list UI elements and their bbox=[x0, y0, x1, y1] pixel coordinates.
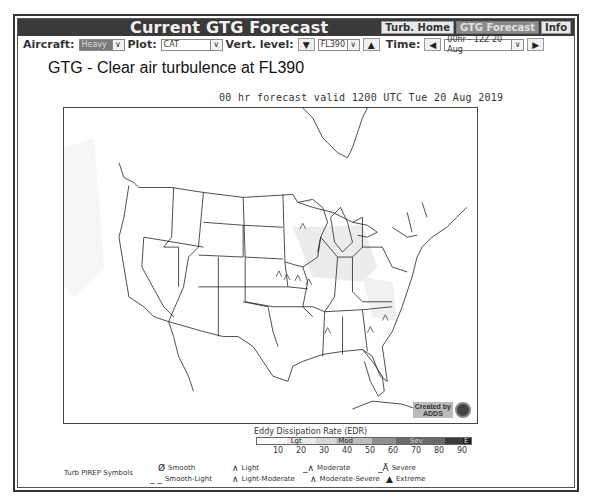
pirep-legend: Turb PIREP Symbols Ø Smooth _ _ Smooth-L… bbox=[0, 462, 590, 488]
nav-info-button[interactable]: Info bbox=[541, 21, 571, 34]
level-select[interactable]: FL390 ∨ bbox=[318, 39, 360, 51]
nav-buttons: Turb. Home GTG Forecast Info bbox=[381, 21, 571, 34]
pirep-label: Moderate bbox=[317, 464, 350, 472]
tick-label: 40 bbox=[342, 446, 352, 455]
pirep-item-smooth: Ø Smooth bbox=[158, 463, 195, 473]
triangle-down-icon: ▼ bbox=[303, 40, 310, 50]
pirep-label: Light bbox=[242, 464, 259, 472]
pirep-item-smooth-light: _ _ Smooth-Light bbox=[150, 474, 212, 484]
plot-subtitle: 00 hr forecast valid 1200 UTC Tue 20 Aug… bbox=[219, 92, 503, 103]
colorbar-ticks: 10 20 30 40 50 60 70 80 90 bbox=[256, 446, 472, 456]
credit-text: Created by ADDS bbox=[413, 402, 453, 418]
tick-label: 20 bbox=[296, 446, 306, 455]
colorbar-segment-severe: Sev bbox=[396, 438, 446, 444]
smooth-light-symbol-icon: _ _ bbox=[150, 474, 162, 484]
tick-label: 90 bbox=[457, 446, 467, 455]
nav-turb-home-button[interactable]: Turb. Home bbox=[381, 21, 454, 34]
tick-label: 70 bbox=[411, 446, 421, 455]
pirep-label: Light-Moderate bbox=[242, 475, 295, 483]
pirep-item-light-moderate: ∧ Light-Moderate bbox=[232, 474, 295, 484]
title-bar: Current GTG Forecast Turb. Home GTG Fore… bbox=[18, 19, 574, 36]
colorbar-segment-light: Lgt bbox=[287, 438, 317, 444]
tick-label: 50 bbox=[365, 446, 375, 455]
us-map-outline bbox=[64, 108, 477, 423]
light-symbol-icon: ∧ bbox=[232, 463, 239, 473]
chevron-down-icon: ∨ bbox=[347, 40, 359, 50]
pirep-label: Extreme bbox=[396, 475, 425, 483]
tick-label: 60 bbox=[388, 446, 398, 455]
plot-label: Plot: bbox=[128, 38, 157, 51]
moderate-severe-symbol-icon: ∧ bbox=[310, 474, 317, 484]
plot-select[interactable]: CAT ∨ bbox=[161, 39, 223, 51]
time-label: Time: bbox=[386, 38, 421, 51]
pirep-label: Moderate-Severe bbox=[320, 475, 380, 483]
pirep-item-light: ∧ Light bbox=[232, 463, 259, 473]
tick-label: 10 bbox=[273, 446, 283, 455]
page-title: Current GTG Forecast bbox=[130, 18, 328, 37]
credit-line-1: Created by bbox=[415, 403, 451, 410]
smooth-symbol-icon: Ø bbox=[158, 463, 165, 473]
extreme-symbol-icon: ▲ bbox=[386, 474, 393, 484]
pirep-label: Severe bbox=[392, 464, 416, 472]
turbulence-map: Created by ADDS bbox=[63, 107, 478, 424]
level-down-button[interactable]: ▼ bbox=[298, 38, 315, 51]
level-up-button[interactable]: ▲ bbox=[363, 38, 380, 51]
chevron-down-icon: ∨ bbox=[112, 40, 124, 50]
triangle-right-icon: ▶ bbox=[532, 40, 539, 50]
chevron-down-icon: ∨ bbox=[511, 40, 523, 50]
aircraft-label: Aircraft: bbox=[23, 38, 75, 51]
chevron-down-icon: ∨ bbox=[210, 40, 222, 50]
colorbar-segment bbox=[445, 438, 463, 444]
edr-colorbar: Lgt Mod Sev E bbox=[256, 437, 472, 445]
pirep-item-extreme: ▲ Extreme bbox=[386, 474, 425, 484]
time-next-button[interactable]: ▶ bbox=[527, 38, 544, 51]
pirep-legend-header: Turb PIREP Symbols bbox=[64, 469, 133, 477]
colorbar-label-extreme: E bbox=[464, 437, 468, 445]
level-select-value: FL390 bbox=[319, 40, 347, 50]
pirep-item-moderate: _∧ Moderate bbox=[303, 463, 350, 473]
triangle-up-icon: ▲ bbox=[368, 40, 375, 50]
time-prev-button[interactable]: ◀ bbox=[424, 38, 441, 51]
triangle-left-icon: ◀ bbox=[429, 40, 436, 50]
colorbar-label-light: Lgt bbox=[291, 437, 302, 445]
pirep-item-severe: _Ä Severe bbox=[378, 463, 416, 473]
credit-badge: Created by ADDS bbox=[413, 402, 471, 418]
colorbar-segment-moderate: Mod bbox=[336, 438, 372, 444]
time-select[interactable]: 00hr - 12Z 20 Aug ∨ bbox=[444, 39, 524, 51]
nav-gtg-forecast-button[interactable]: GTG Forecast bbox=[456, 21, 539, 34]
aircraft-select-value: Heavy bbox=[80, 40, 112, 50]
tick-label: 80 bbox=[434, 446, 444, 455]
vert-level-label: Vert. level: bbox=[226, 38, 294, 51]
aircraft-select[interactable]: Heavy ∨ bbox=[79, 39, 125, 51]
colorbar-segment-extreme: E bbox=[463, 438, 471, 444]
plot-title: GTG - Clear air turbulence at FL390 bbox=[48, 59, 304, 77]
tick-label: 30 bbox=[319, 446, 329, 455]
legend-title: Eddy Dissipation Rate (EDR) bbox=[254, 427, 367, 436]
colorbar-segment bbox=[372, 438, 396, 444]
time-select-value: 00hr - 12Z 20 Aug bbox=[445, 35, 511, 55]
pirep-item-moderate-severe: ∧ Moderate-Severe bbox=[310, 474, 380, 484]
controls-toolbar: Aircraft: Heavy ∨ Plot: CAT ∨ Vert. leve… bbox=[18, 36, 574, 53]
colorbar-label-severe: Sev bbox=[410, 437, 423, 445]
noaa-logo-icon bbox=[455, 402, 471, 418]
moderate-symbol-icon: _∧ bbox=[303, 463, 314, 473]
pirep-label: Smooth bbox=[168, 464, 195, 472]
light-moderate-symbol-icon: ∧ bbox=[232, 474, 239, 484]
plot-select-value: CAT bbox=[162, 40, 210, 50]
colorbar-label-moderate: Mod bbox=[338, 437, 353, 445]
colorbar-segment bbox=[257, 438, 287, 444]
severe-symbol-icon: _Ä bbox=[378, 463, 389, 473]
colorbar-segment bbox=[316, 438, 336, 444]
credit-line-2: ADDS bbox=[415, 410, 451, 417]
pirep-label: Smooth-Light bbox=[165, 475, 212, 483]
